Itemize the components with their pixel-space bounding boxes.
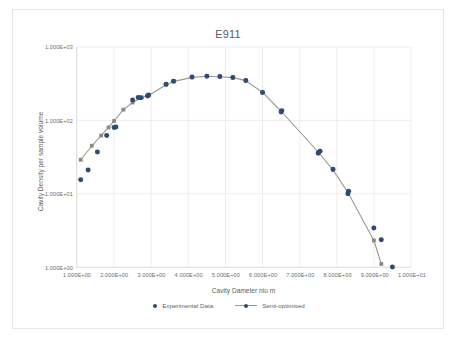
x-axis-tick-label: 4.000E+00 bbox=[175, 267, 203, 278]
x-axis-tick-label: 8.000E+00 bbox=[323, 267, 351, 278]
x-axis-tick-label: 5.000E+00 bbox=[212, 267, 240, 278]
y-axis-tick-label: 1.000E+01 bbox=[45, 191, 77, 197]
x-axis-tick-label: 2.000E+00 bbox=[100, 267, 128, 278]
x-axis-tick-label: 1.000E+01 bbox=[398, 267, 426, 278]
chart-card: E911 1.000E+001.000E+011.000E+021.000E+0… bbox=[12, 9, 444, 329]
legend-dot-icon bbox=[153, 304, 157, 308]
x-axis-tick-label: 1.000E+00 bbox=[63, 267, 91, 278]
x-axis-tick-label: 6.000E+00 bbox=[249, 267, 277, 278]
plot-wrapper: 1.000E+001.000E+011.000E+021.000E+03 1.0… bbox=[13, 10, 445, 330]
plot-area: 1.000E+001.000E+011.000E+021.000E+03 1.0… bbox=[76, 47, 411, 268]
data-series-layer bbox=[77, 47, 411, 267]
legend-line-marker-icon bbox=[235, 303, 257, 308]
legend-item-semi-optimised[interactable]: Semi-optimised bbox=[235, 302, 305, 309]
x-axis-title: Cavity Dameter niu m bbox=[76, 287, 411, 294]
y-axis-title: Cavity Density per sample volume bbox=[37, 72, 44, 252]
y-axis-tick-label: 1.000E+02 bbox=[45, 118, 77, 124]
x-axis-tick-label: 7.000E+00 bbox=[286, 267, 314, 278]
legend-label: Experimental Data bbox=[162, 302, 213, 309]
legend-label: Semi-optimised bbox=[262, 302, 305, 309]
legend-item-experimental[interactable]: Experimental Data bbox=[153, 302, 213, 309]
x-axis-tick-label: 9.000E+00 bbox=[361, 267, 389, 278]
x-axis-tick-label: 3.000E+00 bbox=[137, 267, 165, 278]
chart-legend: Experimental Data Semi-optimised bbox=[13, 302, 445, 309]
y-axis-tick-label: 1.000E+03 bbox=[45, 44, 77, 50]
